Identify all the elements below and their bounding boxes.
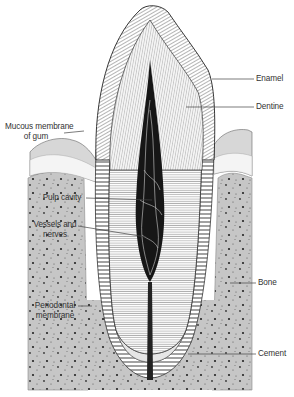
label-cement: Cement bbox=[258, 349, 286, 359]
gum-right-tissue bbox=[214, 153, 252, 176]
label-vessels-nerves: Vessels and nerves bbox=[32, 220, 78, 240]
label-vessels-line1: Vessels and bbox=[32, 220, 78, 230]
label-pulp-cavity: Pulp cavity bbox=[38, 193, 86, 203]
label-periodontal-line1: Periodontal bbox=[32, 301, 78, 311]
label-dentine: Dentine bbox=[256, 102, 284, 112]
label-mucous-membrane: Mucous membrane of gum bbox=[5, 122, 67, 142]
root-canal bbox=[147, 282, 153, 380]
label-bone: Bone bbox=[258, 278, 277, 288]
label-periodontal-line2: membrane bbox=[32, 311, 78, 321]
label-vessels-line2: nerves bbox=[32, 230, 78, 240]
label-periodontal-membrane: Periodontal membrane bbox=[32, 301, 78, 321]
label-mucous-line2: of gum bbox=[5, 132, 67, 142]
label-enamel: Enamel bbox=[256, 74, 283, 84]
label-mucous-line1: Mucous membrane bbox=[5, 122, 67, 132]
